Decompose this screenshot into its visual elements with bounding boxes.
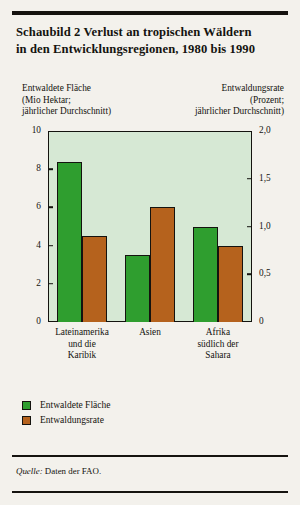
legend-swatch-icon [22,416,31,425]
bar-area [57,162,82,322]
title-line-2: in den Entwicklungsregionen, 1980 bis 19… [16,41,286,58]
left-axis-tick-label: 4 [36,241,41,250]
legend-item: Entwaldungsrate [22,415,110,425]
bar-rate [150,207,175,322]
chart-legend: Entwaldete FlächeEntwaldungsrate [22,400,110,430]
right-axis-caption-line-2: (Prozent; [195,95,284,107]
source-note: Quelle: Daten der FAO. [16,466,101,476]
left-axis-caption: Entwaldete Fläche (Mio Hektar; jährliche… [22,83,111,118]
right-axis-tick-mark [247,178,252,180]
top-rule [12,11,288,15]
category-label-line: Karibik [48,350,116,362]
bar-rate [82,236,107,322]
left-axis-caption-line-3: jährlicher Durchschnitt) [22,106,111,118]
right-axis-tick-mark [247,273,252,275]
category-label-line: und die [48,339,116,351]
bar-group [184,131,252,322]
left-axis-tick-mark [48,207,53,209]
category-label-line: südlich der [184,339,252,351]
left-axis-tick-label: 10 [32,126,41,135]
left-axis-tick-label: 2 [36,279,41,288]
bar-area [125,255,150,322]
bar-group [48,131,116,322]
right-axis-tick-label: 1,5 [259,174,271,183]
right-axis-tick-label: 0 [259,317,264,326]
page-title: Schaubild 2 Verlust an tropischen Wälder… [16,24,286,57]
bottom-rule [12,455,288,457]
bar-chart: 0246810 00,51,01,52,0 [48,131,252,322]
left-axis-tick-mark [48,245,53,247]
left-axis-tick-label: 6 [36,203,41,212]
bar-rate [218,246,243,322]
right-axis-caption-line-3: jährlicher Durchschnitt) [195,106,284,118]
category-label-line: Sahara [184,350,252,362]
legend-label: Entwaldungsrate [40,415,104,425]
legend-swatch-icon [22,401,31,410]
source-value: Daten der FAO. [43,466,102,476]
bar-group [116,131,184,322]
category-label-line: Afrika [184,327,252,339]
end-rule [12,491,288,493]
category-label: Afrikasüdlich derSahara [184,327,252,362]
category-label-line: Asien [116,327,184,339]
category-label: Asien [116,327,184,362]
title-line-1: Schaubild 2 Verlust an tropischen Wälder… [16,25,252,39]
legend-item: Entwaldete Fläche [22,400,110,410]
source-label: Quelle: [16,466,43,476]
right-axis-tick-label: 2,0 [259,126,271,135]
category-label: Lateinamerikaund dieKaribik [48,327,116,362]
left-axis-tick-mark [48,283,53,285]
bar-area [193,227,218,323]
left-axis-caption-line-2: (Mio Hektar; [22,95,111,107]
legend-label: Entwaldete Fläche [40,400,110,410]
right-axis-tick-label: 0,5 [259,270,271,279]
left-axis-caption-line-1: Entwaldete Fläche [22,83,111,95]
left-axis-tick-label: 8 [36,165,41,174]
right-axis-caption-line-1: Entwaldungsrate [195,83,284,95]
right-axis-tick-label: 1,0 [259,222,271,231]
bar-series-container [48,131,252,322]
right-axis-tick-mark [247,226,252,228]
figure-page: Schaubild 2 Verlust an tropischen Wälder… [0,0,300,505]
left-axis-tick-mark [48,168,53,170]
left-axis-tick-label: 0 [36,317,41,326]
right-axis-caption: Entwaldungsrate (Prozent; jährlicher Dur… [195,83,284,118]
category-label-line: Lateinamerika [48,327,116,339]
category-axis-labels: Lateinamerikaund dieKaribikAsienAfrikasü… [48,327,252,362]
